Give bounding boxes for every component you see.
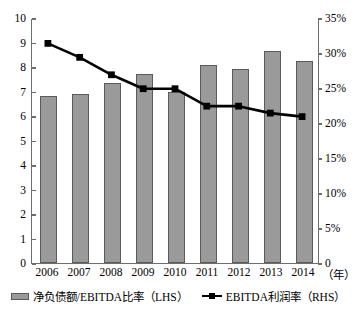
line-marker <box>140 85 147 92</box>
x-axis-labels: 200620072008200920102011201220132014 <box>31 266 319 282</box>
x-axis-tick-label: 2008 <box>100 266 123 278</box>
line-marker <box>203 103 210 110</box>
y-tick-left-mark <box>32 92 36 93</box>
bar-swatch-icon <box>11 293 29 300</box>
y-tick-left-mark <box>32 116 36 117</box>
x-axis-tick-label: 2009 <box>132 266 155 278</box>
y-tick-left-mark <box>32 214 36 215</box>
y-tick-left-label: 5 <box>20 136 32 148</box>
y-tick-left-mark <box>32 190 36 191</box>
y-tick-right-label: 30% <box>318 48 346 60</box>
y-tick-left-label: 4 <box>20 160 32 172</box>
y-tick-left-mark <box>32 141 36 142</box>
y-tick-left-label: 7 <box>20 87 32 99</box>
y-tick-right-label: 25% <box>318 83 346 95</box>
y-tick-right-label: 10% <box>318 188 346 200</box>
y-tick-left-mark <box>32 43 36 44</box>
legend-item-line: EBITDA利润率（RHS） <box>202 288 346 304</box>
y-tick-right-mark <box>318 228 322 229</box>
y-tick-right-mark <box>318 18 322 19</box>
plot-area: 012345678910 05%10%15%20%25%30%35% <box>31 19 319 264</box>
line-marker <box>172 85 179 92</box>
x-axis-tick-label: 2006 <box>36 266 59 278</box>
line-marker <box>45 40 52 47</box>
y-tick-right-mark <box>318 123 322 124</box>
y-tick-left-label: 6 <box>20 111 32 123</box>
line-marker <box>108 71 115 78</box>
x-axis-tick-label: 2007 <box>68 266 91 278</box>
x-axis-tick-label: 2011 <box>196 266 219 278</box>
legend-item-bar: 净负债额/EBITDA比率（LHS） <box>11 288 188 304</box>
x-axis-unit-label: （年） <box>322 266 355 282</box>
y-tick-left-label: 1 <box>20 234 32 246</box>
line-marker <box>299 113 306 120</box>
y-tick-right-label: 20% <box>318 118 346 130</box>
y-tick-right-label: 15% <box>318 153 346 165</box>
y-tick-left-label: 8 <box>20 62 32 74</box>
x-axis-tick-label: 2010 <box>164 266 187 278</box>
line-path <box>48 43 302 116</box>
y-tick-left-mark <box>32 67 36 68</box>
x-axis-tick-label: 2013 <box>260 266 283 278</box>
y-tick-left-label: 3 <box>20 185 32 197</box>
y-tick-left-label: 9 <box>20 38 32 50</box>
y-tick-left-label: 10 <box>15 13 33 25</box>
y-tick-left-mark <box>32 165 36 166</box>
y-tick-left-mark <box>32 18 36 19</box>
legend-label-bar: 净负债额/EBITDA比率（LHS） <box>33 288 188 304</box>
y-tick-right-mark <box>318 263 322 264</box>
line-marker <box>235 103 242 110</box>
y-tick-right-mark <box>318 53 322 54</box>
x-axis-tick-label: 2012 <box>228 266 251 278</box>
y-tick-right-mark <box>318 193 322 194</box>
y-tick-left-mark <box>32 263 36 264</box>
line-marker-swatch-icon <box>202 292 222 301</box>
y-tick-left-mark <box>32 239 36 240</box>
legend-label-line: EBITDA利润率（RHS） <box>226 288 346 304</box>
line-marker <box>76 54 83 61</box>
line-series-layer <box>32 19 318 263</box>
y-tick-left-label: 2 <box>20 209 32 221</box>
x-axis-tick-label: 2014 <box>292 266 315 278</box>
chart-container: 012345678910 05%10%15%20%25%30%35% 20062… <box>0 0 356 309</box>
line-marker <box>267 110 274 117</box>
chart-legend: 净负债额/EBITDA比率（LHS） EBITDA利润率（RHS） <box>0 288 356 304</box>
y-tick-right-mark <box>318 88 322 89</box>
y-tick-right-mark <box>318 158 322 159</box>
y-tick-right-label: 35% <box>318 13 346 25</box>
